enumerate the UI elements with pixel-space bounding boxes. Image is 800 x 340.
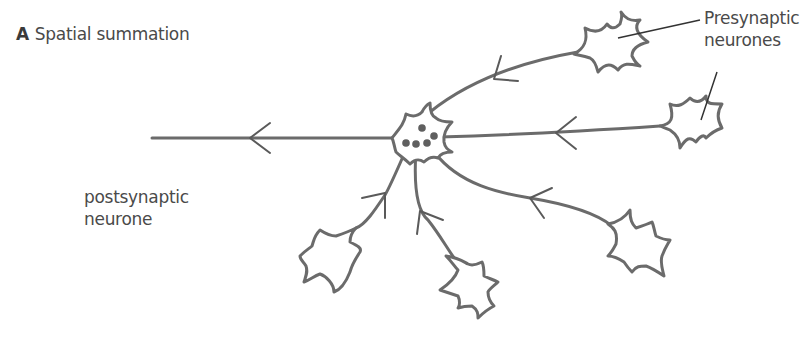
presynaptic-neurone-3 xyxy=(608,210,670,276)
presynaptic-neurone-2 xyxy=(660,96,722,148)
presynaptic-neurone-4 xyxy=(440,256,498,318)
axon-presynaptic-5 xyxy=(356,152,405,228)
axon-presynaptic-2 xyxy=(440,126,660,137)
postsynaptic-cell-body xyxy=(392,103,452,164)
spatial-summation-diagram xyxy=(0,0,800,340)
presynaptic-neurone-5 xyxy=(300,228,361,292)
presynaptic-neurone-1 xyxy=(574,12,648,72)
arrow-up-icon xyxy=(362,193,385,218)
axon-presynaptic-3 xyxy=(435,153,612,226)
axon-presynaptic-1 xyxy=(430,52,578,112)
